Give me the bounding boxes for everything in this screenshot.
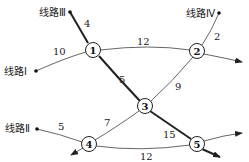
route-iii-start-dot: [68, 10, 72, 14]
route-iv-start-dot: [217, 11, 221, 15]
route-i-label: 线路Ⅰ: [4, 65, 27, 77]
route-i-exit: [204, 54, 242, 62]
edge-3-4: [95, 111, 139, 140]
weight-i-1: 10: [53, 46, 66, 57]
node-2: 2: [190, 44, 205, 59]
route-iv-label: 线路Ⅳ: [186, 7, 216, 19]
svg-text:2: 2: [194, 46, 201, 57]
node-4: 4: [82, 137, 97, 152]
weight-2-3: 9: [175, 81, 181, 92]
network-diagram: 线路Ⅰ 线路Ⅱ 线路Ⅲ 线路Ⅳ 4 10 12 2 5 9 5 7 15 12 …: [0, 0, 249, 162]
route-iii-label: 线路Ⅲ: [39, 6, 66, 18]
route-i-start-dot: [34, 69, 38, 73]
node-3: 3: [138, 99, 153, 114]
edge-2-3: [151, 57, 193, 101]
svg-text:1: 1: [90, 45, 97, 56]
weight-1-3: 5: [119, 74, 125, 85]
weight-4-5: 12: [140, 151, 153, 162]
route-iv-exit: [71, 148, 83, 155]
weight-iii-1: 4: [84, 18, 90, 29]
route-ii-label: 线路Ⅱ: [5, 122, 30, 134]
edge-1-2: [100, 47, 190, 50]
node-1: 1: [86, 43, 101, 58]
weight-1-2: 12: [137, 36, 150, 47]
route-ii-exit: [204, 133, 242, 141]
svg-text:3: 3: [142, 101, 149, 112]
route-iii-exit: [202, 149, 220, 157]
route-ii-start-dot: [35, 127, 39, 131]
edge-4-5: [96, 145, 190, 149]
weight-4-3: 7: [104, 117, 110, 128]
weight-ii-4: 5: [58, 121, 64, 132]
weight-iv-2: 2: [214, 31, 220, 42]
weight-3-5: 15: [163, 129, 176, 140]
svg-text:4: 4: [86, 139, 93, 150]
node-5: 5: [190, 137, 205, 152]
svg-text:5: 5: [194, 139, 201, 150]
